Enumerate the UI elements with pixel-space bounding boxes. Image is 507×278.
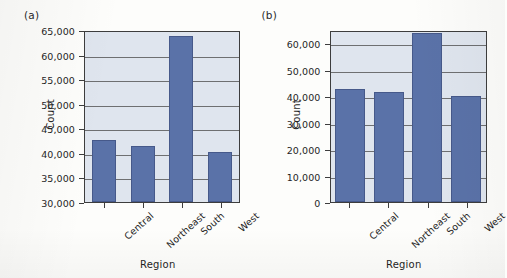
x-tick-label-west: West (482, 210, 507, 234)
y-tick-mark (325, 124, 330, 125)
y-tick-label: 20,000 (253, 145, 321, 156)
panel-b-x-axis-title: Region (386, 259, 421, 270)
bar-south[interactable] (412, 33, 442, 202)
y-tick-mark (79, 80, 84, 81)
y-tick-label: 30,000 (253, 118, 321, 129)
bar-central[interactable] (335, 89, 365, 202)
y-tick-label: 40,000 (0, 148, 75, 159)
x-tick-label-central: Central (367, 210, 401, 242)
panel-a-bars (85, 32, 239, 202)
y-tick-label: 50,000 (253, 65, 321, 76)
y-tick-mark (325, 97, 330, 98)
panel-a-y-axis-title: Count (45, 75, 56, 155)
y-tick-mark (325, 44, 330, 45)
y-tick-label: 35,000 (0, 173, 75, 184)
bar-northeast[interactable] (374, 92, 404, 202)
y-tick-mark (325, 177, 330, 178)
y-tick-label: 40,000 (253, 92, 321, 103)
y-tick-label: 30,000 (0, 198, 75, 209)
panel-b: (b) Count 010,00020,00030,00040,00050,00… (253, 0, 506, 278)
x-tick-mark (182, 203, 183, 208)
panel-a: (a) Count 30,00035,00040,00045,00050,000… (0, 0, 253, 278)
bar-slot (162, 32, 201, 202)
x-tick-mark (143, 203, 144, 208)
y-tick-mark (79, 203, 84, 204)
y-tick-label: 0 (253, 198, 321, 209)
x-tick-mark (467, 203, 468, 208)
y-tick-mark (79, 178, 84, 179)
panel-a-label: (a) (24, 9, 39, 21)
bar-slot (201, 32, 240, 202)
bar-slot (85, 32, 124, 202)
y-tick-label: 60,000 (0, 50, 75, 61)
y-tick-label: 45,000 (0, 124, 75, 135)
y-tick-mark (79, 31, 84, 32)
panel-b-y-axis-title: Count (290, 75, 301, 155)
bar-slot (331, 32, 370, 202)
bar-slot (447, 32, 486, 202)
panel-b-label: (b) (262, 9, 277, 21)
panel-a-x-axis-title: Region (140, 259, 175, 270)
x-tick-mark (104, 203, 105, 208)
bar-slot (369, 32, 408, 202)
bar-central[interactable] (92, 140, 116, 202)
y-tick-label: 60,000 (253, 39, 321, 50)
y-tick-mark (325, 71, 330, 72)
y-tick-mark (79, 154, 84, 155)
x-tick-mark (349, 203, 350, 208)
x-tick-mark (221, 203, 222, 208)
x-tick-mark (428, 203, 429, 208)
panel-b-plot-area (330, 31, 487, 203)
bar-slot (408, 32, 447, 202)
x-tick-mark (388, 203, 389, 208)
y-tick-mark (325, 150, 330, 151)
panel-a-plot-area (84, 31, 240, 203)
bar-west[interactable] (451, 96, 481, 202)
bar-south[interactable] (169, 36, 193, 202)
panel-b-bars (331, 32, 486, 202)
y-tick-label: 50,000 (0, 99, 75, 110)
y-tick-mark (79, 56, 84, 57)
bar-northeast[interactable] (131, 146, 155, 202)
y-tick-label: 55,000 (0, 75, 75, 86)
bar-west[interactable] (208, 152, 232, 202)
y-tick-mark (79, 105, 84, 106)
y-tick-label: 10,000 (253, 171, 321, 182)
x-tick-label-central: Central (122, 210, 156, 242)
y-tick-label: 65,000 (0, 26, 75, 37)
y-tick-mark (79, 129, 84, 130)
y-tick-mark (325, 203, 330, 204)
bar-slot (124, 32, 163, 202)
